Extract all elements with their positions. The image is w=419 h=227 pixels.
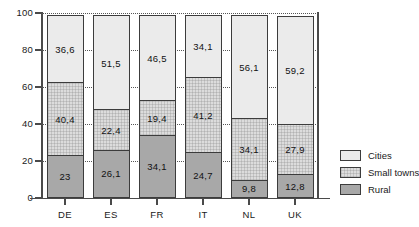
legend-label: Cities xyxy=(368,150,392,161)
legend-label: Rural xyxy=(368,184,391,195)
legend-swatch-cities xyxy=(340,150,361,161)
bar-segment-uk-rural[interactable]: 12,8 xyxy=(277,174,314,198)
gridline-100 xyxy=(42,13,318,14)
bar-group-nl[interactable]: 56,134,19,8 xyxy=(231,17,268,198)
x-tick-fr xyxy=(156,198,158,205)
bar-value-label: 36,6 xyxy=(55,44,74,55)
bar-segment-de-cities[interactable]: 36,6 xyxy=(47,15,84,83)
y-axis-label: 80 xyxy=(3,44,33,55)
bar-value-label: 24,7 xyxy=(193,170,212,181)
x-axis-label-de: DE xyxy=(45,209,85,220)
bar-segment-es-small-towns[interactable]: 22,4 xyxy=(93,109,130,150)
x-tick-es xyxy=(110,198,112,205)
legend-swatch-rural xyxy=(340,184,361,195)
x-axis-label-uk: UK xyxy=(275,209,315,220)
bar-group-es[interactable]: 51,522,426,1 xyxy=(93,17,130,198)
bar-segment-it-small-towns[interactable]: 41,2 xyxy=(185,77,222,153)
bar-value-label: 34,1 xyxy=(147,161,166,172)
bar-value-label: 46,5 xyxy=(147,53,166,64)
y-axis-label: 20 xyxy=(3,155,33,166)
bar-value-label: 9,8 xyxy=(242,183,256,194)
bar-segment-it-rural[interactable]: 24,7 xyxy=(185,152,222,198)
bar-group-de[interactable]: 36,640,423 xyxy=(47,17,84,198)
bar-group-fr[interactable]: 46,519,434,1 xyxy=(139,17,176,198)
legend-item-cities[interactable]: Cities xyxy=(340,148,419,163)
y-axis-label: 40 xyxy=(3,118,33,129)
bar-value-label: 34,1 xyxy=(193,41,212,52)
bar-segment-nl-cities[interactable]: 56,1 xyxy=(231,15,268,119)
bar-value-label: 41,2 xyxy=(193,110,212,121)
bar-value-label: 27,9 xyxy=(285,144,304,155)
bar-segment-fr-small-towns[interactable]: 19,4 xyxy=(139,100,176,136)
y-axis-label: 100 xyxy=(3,7,33,18)
bar-group-it[interactable]: 34,141,224,7 xyxy=(185,17,222,198)
legend-swatch-towns xyxy=(340,167,361,178)
bar-value-label: 51,5 xyxy=(101,58,120,69)
x-tick-de xyxy=(64,198,66,205)
bar-value-label: 26,1 xyxy=(101,168,120,179)
x-tick-nl xyxy=(248,198,250,205)
x-axis-label-nl: NL xyxy=(229,209,269,220)
bar-value-label: 19,4 xyxy=(147,113,166,124)
legend-item-towns[interactable]: Small towns xyxy=(340,165,419,180)
bar-value-label: 23 xyxy=(60,171,71,182)
bar-segment-es-rural[interactable]: 26,1 xyxy=(93,150,130,198)
chart-legend: CitiesSmall townsRural xyxy=(340,148,419,199)
x-axis-label-es: ES xyxy=(91,209,131,220)
bar-segment-it-cities[interactable]: 34,1 xyxy=(185,15,222,78)
legend-item-rural[interactable]: Rural xyxy=(340,182,419,197)
bar-segment-nl-small-towns[interactable]: 34,1 xyxy=(231,118,268,181)
bar-segment-de-small-towns[interactable]: 40,4 xyxy=(47,82,84,157)
bar-value-label: 22,4 xyxy=(101,125,120,136)
legend-label: Small towns xyxy=(368,167,419,178)
x-axis-label-it: IT xyxy=(183,209,223,220)
bar-segment-fr-rural[interactable]: 34,1 xyxy=(139,135,176,198)
y-axis-label: 60 xyxy=(3,81,33,92)
bar-segment-uk-small-towns[interactable]: 27,9 xyxy=(277,124,314,176)
bar-group-uk[interactable]: 59,227,912,8 xyxy=(277,17,314,198)
bar-value-label: 40,4 xyxy=(55,114,74,125)
x-axis-label-fr: FR xyxy=(137,209,177,220)
bar-value-label: 56,1 xyxy=(239,62,258,73)
bar-segment-fr-cities[interactable]: 46,5 xyxy=(139,15,176,101)
bar-value-label: 12,8 xyxy=(285,181,304,192)
bar-segment-es-cities[interactable]: 51,5 xyxy=(93,15,130,110)
bar-value-label: 59,2 xyxy=(285,65,304,76)
bar-segment-nl-rural[interactable]: 9,8 xyxy=(231,180,268,198)
bar-segment-uk-cities[interactable]: 59,2 xyxy=(277,16,314,126)
x-tick-uk xyxy=(294,198,296,205)
plot-area: 36,640,42351,522,426,146,519,434,134,141… xyxy=(42,13,318,198)
y-axis-label: 0 xyxy=(3,192,33,203)
bar-value-label: 34,1 xyxy=(239,144,258,155)
bar-segment-de-rural[interactable]: 23 xyxy=(47,155,84,198)
x-tick-it xyxy=(202,198,204,205)
